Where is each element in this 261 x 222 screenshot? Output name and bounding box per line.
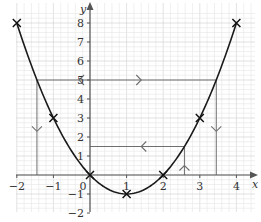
- y-tick-label: 1: [77, 150, 84, 163]
- y-axis-label: y: [79, 3, 87, 16]
- x-tick-label: −1: [45, 180, 61, 193]
- y-tick-label: 2: [77, 131, 84, 144]
- quadratic-graph: −2−101234−2−112345678xy: [0, 0, 261, 222]
- y-tick-label: 6: [77, 55, 84, 68]
- x-tick-label: 3: [196, 180, 203, 193]
- y-tick-label: 7: [77, 36, 84, 49]
- x-tick-label: −2: [9, 180, 25, 193]
- y-tick-label: 3: [77, 112, 84, 125]
- y-tick-label: −1: [68, 188, 84, 201]
- y-tick-label: 4: [77, 93, 84, 106]
- x-axis-label: x: [252, 178, 259, 191]
- y-tick-label: 8: [77, 17, 84, 30]
- y-tick-label: 5: [77, 74, 84, 87]
- x-tick-label: 2: [160, 180, 167, 193]
- x-tick-label: 4: [233, 180, 240, 193]
- x-tick-label: 1: [123, 180, 130, 193]
- y-axis-arrow-icon: [87, 2, 94, 10]
- y-tick-label: −2: [68, 207, 84, 220]
